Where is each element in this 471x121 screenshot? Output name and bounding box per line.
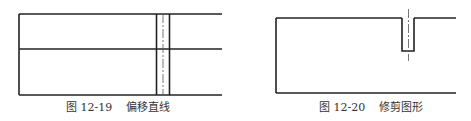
figure-number: 图 12-20 [319,101,365,114]
trimmed-slot [402,18,414,51]
figure-number: 图 12-19 [66,101,112,114]
figure-title: 偏移直线 [126,101,170,114]
figure-12-19-drawing [19,14,222,95]
figure-caption-12-19: 图 12-19偏移直线 [66,101,170,115]
figure-12-20-drawing [276,9,456,93]
figure-caption-12-20: 图 12-20修剪图形 [319,101,423,115]
figure-title: 修剪图形 [379,101,423,114]
